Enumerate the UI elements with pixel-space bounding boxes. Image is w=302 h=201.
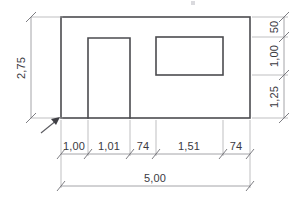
drawing-canvas: 2,75 50 1,00 1,25 1,00 1,01 74 1,51 74 5… (0, 0, 302, 201)
elevation-drawing-svg: 2,75 50 1,00 1,25 1,00 1,01 74 1,51 74 5… (0, 0, 302, 201)
door-opening (88, 38, 130, 118)
dim-label-pier-right-width: 74 (230, 140, 242, 152)
dim-label-window-width: 1,51 (178, 140, 200, 152)
dim-label-header-height: 50 (268, 21, 280, 33)
dim-label-pier-middle-width: 74 (137, 140, 149, 152)
dim-label-pier-left-width: 1,00 (63, 140, 85, 152)
dim-label-total-height: 2,75 (15, 57, 27, 79)
scan-artifact (191, 1, 195, 5)
dim-label-overall-width: 5,00 (144, 172, 166, 184)
dim-label-sill-height: 1,25 (268, 86, 280, 108)
dim-label-window-height: 1,00 (268, 45, 280, 67)
dim-label-door-width: 1,01 (98, 140, 120, 152)
window-opening (156, 37, 223, 75)
